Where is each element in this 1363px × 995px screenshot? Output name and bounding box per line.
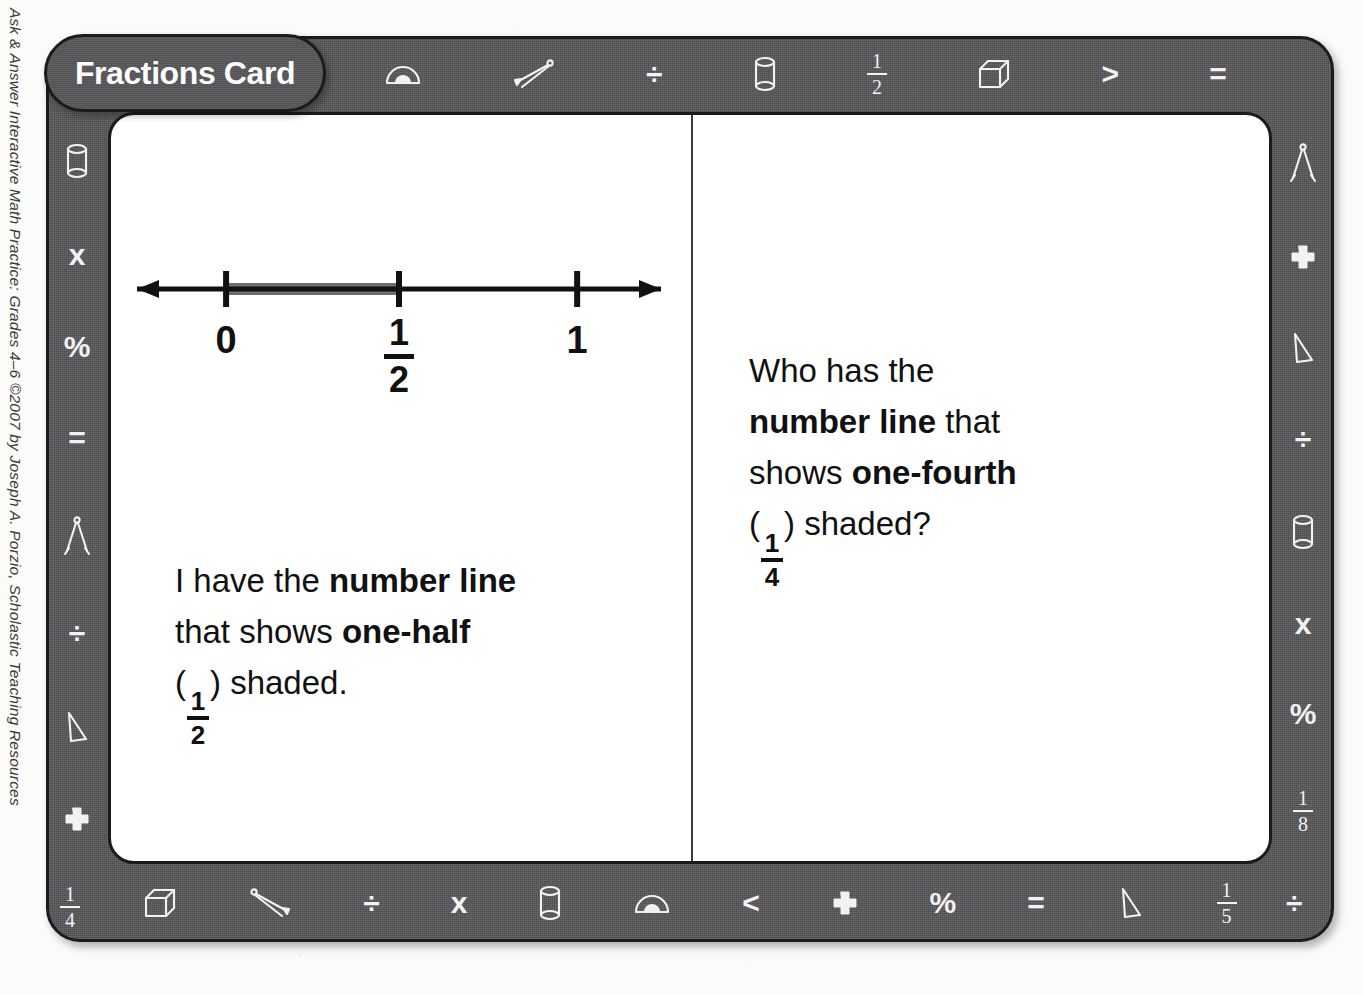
corner-fraction-bar (60, 906, 80, 908)
answer-line1-pre: I have the (175, 562, 329, 599)
question-fraction-numerator: 1 (765, 530, 779, 556)
question-fraction-denominator: 4 (765, 564, 779, 590)
answer-line3-open: ( (175, 664, 186, 701)
number-line-diagram: 0121 (129, 255, 669, 425)
division-sign-icon: ÷ (1286, 888, 1302, 918)
answer-line2-pre: that shows (175, 613, 342, 650)
fractions-card: 13÷12>= ÷x<%=15 x%=÷ ÷x%18 1 4 ÷ Fractio… (46, 36, 1334, 942)
number-line-label-fraction: 12 (384, 315, 414, 398)
question-fraction-one-fourth: 14 (761, 530, 783, 590)
question-line4-open: ( (749, 505, 760, 542)
fraction-one-fourth-icon: 1 4 (60, 884, 80, 930)
number-line-label-0: 0 (216, 319, 237, 362)
number-line-label-numerator: 1 (389, 315, 409, 351)
question-line3-pre: shows (749, 454, 852, 491)
corner-fraction-numerator: 1 (65, 884, 75, 904)
answer-panel: 0121 I have the number line that shows o… (111, 115, 691, 864)
copyright-credit: Ask & Answer Interactive Math Practice: … (4, 0, 30, 995)
question-panel: Who has the number line that shows one-f… (693, 115, 1272, 864)
answer-fraction-numerator: 1 (191, 688, 205, 714)
answer-line2-bold: one-half (342, 613, 470, 650)
question-line3-bold: one-fourth (852, 454, 1017, 491)
number-line-label-1: 1 (567, 319, 588, 362)
copyright-credit-text: Ask & Answer Interactive Math Practice: … (6, 8, 24, 806)
number-line-labels: 0121 (129, 255, 669, 425)
number-line-label-denominator: 2 (389, 362, 409, 398)
corner-division-glyph: ÷ (1286, 886, 1302, 919)
question-fraction-bar (761, 558, 783, 562)
answer-fraction-one-half: 12 (187, 688, 209, 748)
answer-line3-close: ) shaded. (210, 664, 348, 701)
question-line2-post: that (936, 403, 1000, 440)
answer-line1-bold: number line (329, 562, 516, 599)
question-line4-close: ) shaded? (784, 505, 931, 542)
corner-fraction-denominator: 4 (65, 910, 75, 930)
question-statement: Who has the number line that shows one-f… (749, 345, 1229, 590)
question-line2-bold: number line (749, 403, 936, 440)
card-title-tab: Fractions Card (44, 34, 326, 112)
card-content-area: 0121 I have the number line that shows o… (108, 112, 1272, 864)
question-line1: Who has the (749, 352, 934, 389)
answer-statement: I have the number line that shows one-ha… (175, 555, 665, 748)
card-title: Fractions Card (75, 55, 295, 92)
answer-fraction-denominator: 2 (191, 722, 205, 748)
